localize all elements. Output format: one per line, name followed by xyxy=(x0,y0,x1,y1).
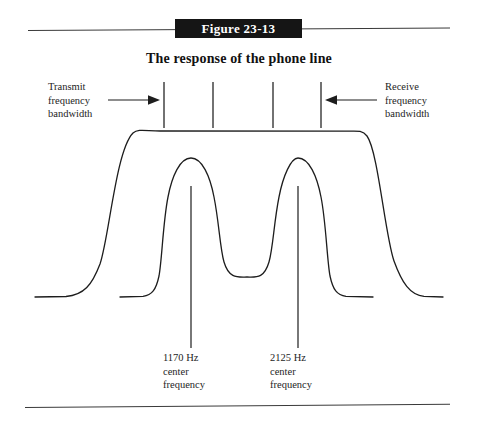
tone-response-curve xyxy=(120,158,373,297)
overall-response-curve xyxy=(35,130,443,297)
arrow-left-icon xyxy=(325,95,377,105)
response-plot xyxy=(0,0,478,422)
arrow-right-icon xyxy=(108,95,160,105)
figure-23-13: Figure 23-13 The response of the phone l… xyxy=(0,0,478,422)
